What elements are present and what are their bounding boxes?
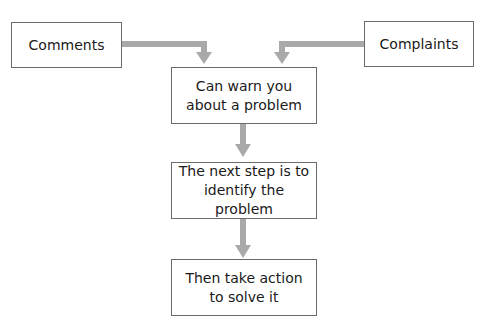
arrow-comments-to-warn xyxy=(121,41,212,64)
node-label: Can warn you about a problem xyxy=(186,77,302,115)
node-can-warn: Can warn you about a problem xyxy=(171,67,317,124)
node-label: Then take action to solve it xyxy=(185,269,302,307)
node-take-action: Then take action to solve it xyxy=(171,259,317,316)
node-complaints: Complaints xyxy=(364,21,474,67)
node-label: The next step is to identify the problem xyxy=(176,162,312,219)
node-identify-problem: The next step is to identify the problem xyxy=(171,162,317,219)
node-label: Comments xyxy=(29,36,105,55)
arrow-complaints-to-warn xyxy=(274,41,364,64)
node-label: Complaints xyxy=(380,35,459,54)
node-comments: Comments xyxy=(11,22,122,68)
arrow-warn-to-identify xyxy=(235,123,251,157)
arrow-identify-to-action xyxy=(235,218,251,258)
